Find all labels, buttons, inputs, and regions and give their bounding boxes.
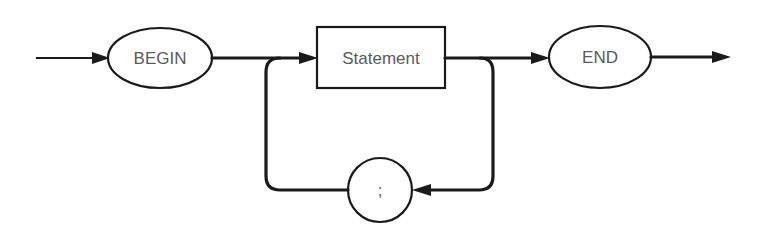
end-arrowhead [531,52,550,64]
separator-label: ; [378,181,383,200]
statement-node: Statement [317,27,445,88]
begin-node: BEGIN [108,28,212,88]
exit-arrowhead [712,51,731,63]
statement-label: Statement [342,49,420,68]
begin-label: BEGIN [134,49,187,68]
statement-arrowhead [299,52,318,64]
separator-arrowhead [412,184,431,196]
end-node: END [549,26,651,88]
syntax-diagram: BEGIN Statement END ; [0,0,768,235]
end-label: END [582,48,618,67]
separator-node: ; [348,158,412,222]
